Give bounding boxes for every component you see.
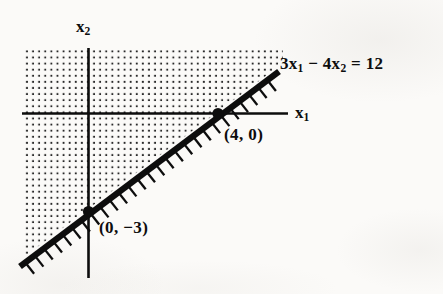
equation-equals: =	[351, 54, 361, 73]
y-axis-label: x2	[76, 18, 90, 35]
equation-term-1: 3x	[280, 54, 298, 73]
half-plane-plot	[0, 0, 443, 294]
y-axis-label-text: x	[76, 17, 85, 36]
x-axis-label-subscript: 1	[304, 111, 310, 124]
equation-sub-2: 2	[340, 62, 346, 75]
figure-container: x2 x1 (4, 0) (0, −3) 3x1 − 4x2 = 12	[0, 0, 443, 294]
equation-rhs: 12	[366, 54, 384, 73]
intercept-label-x: (4, 0)	[224, 126, 263, 143]
y-axis-label-subscript: 2	[85, 25, 91, 38]
equation-term-2: 4x	[323, 54, 341, 73]
equation-minus: −	[308, 54, 318, 73]
boundary-equation-label: 3x1 − 4x2 = 12	[280, 55, 383, 72]
x-axis-label-text: x	[295, 103, 304, 122]
equation-sub-1: 1	[298, 62, 304, 75]
point-marker-0-neg3	[83, 206, 94, 217]
x-axis-label: x1	[295, 104, 309, 121]
point-marker-4-0	[212, 108, 223, 119]
intercept-label-y: (0, −3)	[99, 219, 148, 236]
